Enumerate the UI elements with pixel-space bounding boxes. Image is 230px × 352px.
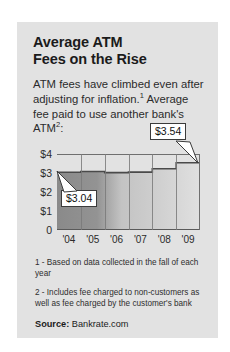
y-tick-label: $1 — [40, 205, 52, 217]
x-tick-label: '08 — [158, 234, 171, 245]
page-title: Average ATM Fees on the Rise — [33, 34, 204, 68]
footnote-2: 2 - Includes fee charged to non-customer… — [35, 288, 204, 310]
x-tick-label: '05 — [86, 234, 99, 245]
x-tick-label: '07 — [134, 234, 147, 245]
category-divider — [129, 154, 130, 230]
category-divider — [152, 154, 153, 230]
footnote-1: 1 - Based on data collected in the fall … — [35, 258, 204, 280]
callout-2009-value: $3.54 — [155, 125, 181, 137]
callout-2009: $3.54 — [150, 123, 186, 140]
x-tick-label: '04 — [62, 234, 75, 245]
callout-2004-pointer — [55, 170, 85, 196]
y-tick-label: $4 — [40, 148, 52, 160]
y-tick-label: $3 — [40, 167, 52, 179]
callout-2009-pointer — [174, 139, 202, 165]
title-line-1: Average ATM — [33, 34, 122, 50]
category-divider — [176, 154, 177, 230]
source-value: Bankrate.com — [72, 319, 129, 329]
source-label: Source: — [35, 319, 69, 329]
x-axis-labels: '04'05'06'07'08'09 — [57, 234, 200, 248]
infographic-card: Average ATM Fees on the Rise ATM fees ha… — [17, 22, 218, 338]
source-line: Source: Bankrate.com — [35, 319, 204, 329]
y-axis-labels: $4$3$2$10 — [31, 154, 55, 230]
x-tick-label: '06 — [110, 234, 123, 245]
category-divider — [105, 154, 106, 230]
y-tick-label: 0 — [46, 224, 52, 236]
title-line-2: Fees on the Rise — [33, 51, 204, 68]
y-axis-right-line — [199, 154, 200, 230]
x-tick-label: '09 — [182, 234, 195, 245]
y-tick-label: $2 — [40, 186, 52, 198]
intro-text-part-3: : — [60, 122, 63, 134]
area-chart: $4$3$2$10 '04'05'06'07'08'09 — [31, 146, 203, 250]
